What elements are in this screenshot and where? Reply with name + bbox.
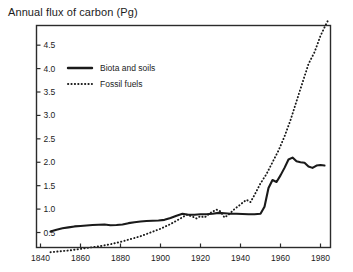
y-tick-label: 3.0 <box>44 110 56 120</box>
carbon-flux-line-chart: 0.51.01.52.02.53.03.54.04.5 184018601880… <box>0 0 353 272</box>
y-tick-label: 0.5 <box>44 228 56 238</box>
y-tick-label: 2.0 <box>44 157 56 167</box>
x-tick-label: 1980 <box>311 253 330 263</box>
legend-label: Biota and soils <box>100 63 155 73</box>
x-tick-label: 1940 <box>231 253 250 263</box>
y-tick-label: 3.5 <box>44 87 56 97</box>
y-tick-label: 1.0 <box>44 204 56 214</box>
x-tick-label: 1860 <box>71 253 90 263</box>
x-tick-label: 1920 <box>191 253 210 263</box>
x-tick-label: 1900 <box>151 253 170 263</box>
y-tick-label: 4.0 <box>44 64 56 74</box>
chart-figure: Annual flux of carbon (Pg) 0.51.01.52.02… <box>0 0 353 272</box>
legend-label: Fossil fuels <box>100 79 143 89</box>
y-tick-label: 2.5 <box>44 134 56 144</box>
y-tick-label: 4.5 <box>44 40 56 50</box>
y-tick-label: 1.5 <box>44 181 56 191</box>
x-tick-label: 1840 <box>31 253 50 263</box>
x-tick-label: 1880 <box>111 253 130 263</box>
x-tick-label: 1960 <box>271 253 290 263</box>
